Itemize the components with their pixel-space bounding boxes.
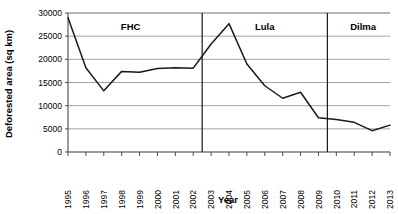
y-tick-label: 25000 [38, 31, 62, 41]
y-tick-label: 20000 [38, 54, 62, 64]
x-tick-label: 1998 [117, 190, 127, 209]
x-tick-label: 1995 [63, 190, 73, 209]
x-tick-label: 1996 [81, 190, 91, 209]
y-tick-label: 10000 [38, 101, 62, 111]
x-tick-label: 2012 [367, 190, 377, 209]
y-tick-label: 0 [57, 147, 62, 157]
x-tick-label: 2007 [278, 190, 288, 209]
era-label-lula: Lula [255, 21, 275, 32]
x-tick-label: 1999 [135, 190, 145, 209]
x-tick-label: 2003 [206, 190, 216, 209]
y-tick-label: 30000 [38, 8, 62, 18]
x-tick-label: 2001 [171, 190, 181, 209]
x-tick-label: 2006 [260, 190, 270, 209]
era-label-fhc: FHC [121, 21, 141, 32]
deforestation-line-chart: 050001000015000200002500030000 199519961… [0, 0, 398, 214]
x-tick-label: 2010 [332, 190, 342, 209]
era-label-dilma: Dilma [350, 21, 377, 32]
x-axis-title: Year [218, 194, 238, 205]
chart-canvas: 050001000015000200002500030000 199519961… [0, 0, 398, 214]
x-tick-label: 2000 [153, 190, 163, 209]
x-tick-label: 2008 [296, 190, 306, 209]
x-tick-label: 2009 [314, 190, 324, 209]
x-tick-label: 2002 [188, 190, 198, 209]
y-axis-title: Deforested area (sq km) [3, 30, 14, 138]
y-tick-label: 15000 [38, 78, 62, 88]
x-tick-label: 1997 [99, 190, 109, 209]
x-tick-label: 2005 [242, 190, 252, 209]
y-tick-label: 5000 [43, 124, 62, 134]
x-tick-label: 2013 [385, 190, 395, 209]
x-tick-label: 2011 [349, 190, 359, 209]
